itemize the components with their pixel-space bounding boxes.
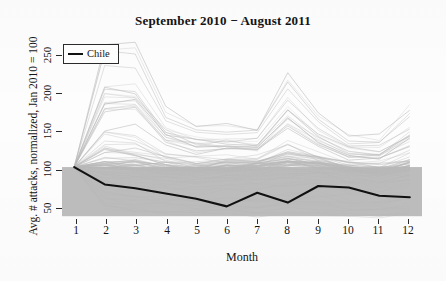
- x-tick-label-8: 8: [275, 224, 299, 236]
- plot-svg: [62, 40, 422, 220]
- x-tick-label-9: 9: [306, 224, 330, 236]
- x-tick-label-12: 12: [396, 224, 420, 236]
- x-tick-label-4: 4: [155, 224, 179, 236]
- x-tick-label-1: 1: [64, 224, 88, 236]
- chart-figure: September 2010 − August 2011 Avg. # atta…: [0, 0, 446, 281]
- y-tick-label-50: 50: [41, 193, 53, 223]
- x-tick-label-5: 5: [185, 224, 209, 236]
- x-tick-label-6: 6: [215, 224, 239, 236]
- y-axis-label: Avg. # attacks, normalized, Jan 2010 = 1…: [27, 26, 39, 246]
- legend[interactable]: Chile: [63, 44, 119, 64]
- background-series-line: [74, 109, 410, 167]
- y-tick-label-200: 200: [41, 78, 53, 108]
- y-tick-label-100: 100: [41, 154, 53, 184]
- y-tick-label-250: 250: [41, 40, 53, 70]
- x-tick-label-3: 3: [124, 224, 148, 236]
- legend-line-swatch-chile: [68, 53, 83, 55]
- x-tick-label-2: 2: [94, 224, 118, 236]
- chart-title: September 2010 − August 2011: [0, 13, 446, 29]
- background-series-line: [74, 93, 410, 167]
- plot-area: [62, 40, 422, 220]
- background-series-line: [74, 94, 410, 167]
- legend-label-chile: Chile: [87, 49, 110, 60]
- x-axis-label: Month: [62, 250, 422, 265]
- x-tick-label-10: 10: [336, 224, 360, 236]
- x-tick-label-7: 7: [245, 224, 269, 236]
- y-tick-label-150: 150: [41, 116, 53, 146]
- x-tick-label-11: 11: [366, 224, 390, 236]
